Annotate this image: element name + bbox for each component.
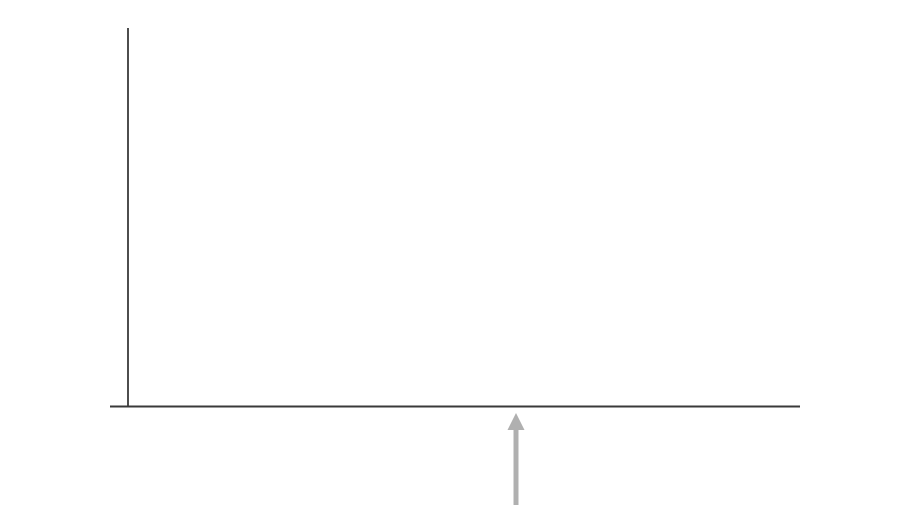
chart-container — [0, 0, 907, 529]
callout-annotation — [191, 26, 215, 296]
plot-area — [0, 0, 907, 529]
y-axis-tick-labels — [60, 0, 122, 529]
system-installation-arrow-icon — [508, 413, 525, 505]
